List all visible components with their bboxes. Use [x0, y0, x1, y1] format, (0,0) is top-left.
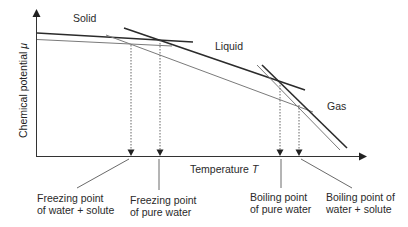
phase-label-liquid: Liquid	[215, 40, 243, 52]
leader-freezing-solute	[77, 159, 129, 188]
leader-boiling-solute	[301, 159, 352, 188]
label-boiling-solute: Boiling point of water + solute	[326, 191, 395, 215]
solid-line-solute	[37, 40, 172, 47]
x-axis-label-text: Temperature	[190, 163, 249, 175]
arrow-down-icon	[128, 150, 135, 157]
liquid-line-solute	[106, 35, 313, 112]
label-boiling-pure: Boiling point of pure water	[250, 191, 311, 215]
phase-label-solid: Solid	[73, 12, 96, 24]
label-line-1: Freezing point	[130, 194, 197, 206]
phase-label-gas: Gas	[327, 100, 346, 112]
arrow-down-icon	[296, 150, 303, 157]
label-line-1: Freezing point	[37, 192, 114, 204]
freezing-solute-dropline	[128, 45, 135, 156]
label-line-1: Boiling point	[250, 191, 311, 203]
freezing-pure-dropline	[157, 40, 164, 156]
label-line-1: Boiling point of	[326, 191, 395, 203]
label-freezing-pure: Freezing point of pure water	[130, 194, 197, 218]
arrow-down-icon	[157, 150, 164, 157]
y-axis-symbol: μ	[17, 43, 29, 49]
boiling-pure-dropline	[277, 82, 284, 156]
label-line-2: of pure water	[130, 206, 197, 218]
y-axis-arrow-icon	[33, 9, 41, 17]
y-axis-label-text: Chemical potential	[17, 52, 29, 138]
arrow-down-icon	[277, 150, 284, 157]
label-line-2: of pure water	[250, 203, 311, 215]
x-axis-label: Temperature T	[190, 163, 258, 175]
boiling-solute-dropline	[296, 105, 303, 156]
x-axis	[36, 153, 367, 161]
x-axis-symbol: T	[252, 163, 258, 175]
label-line-2: of water + solute	[37, 204, 114, 216]
label-line-2: water + solute	[326, 203, 395, 215]
y-axis-label: Chemical potential μ	[17, 43, 29, 138]
y-axis	[33, 9, 41, 157]
x-axis-arrow-icon	[359, 153, 367, 161]
label-freezing-solute: Freezing point of water + solute	[37, 192, 114, 216]
